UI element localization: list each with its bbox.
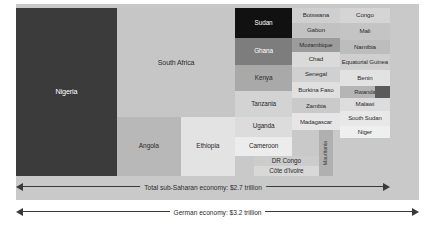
treemap-tile-nigeria[interactable]: Nigeria (16, 8, 117, 176)
arrow-head-left (16, 183, 23, 191)
tile-label: Gabon (306, 27, 326, 33)
tile-label: South Africa (157, 59, 196, 66)
treemap-tile-kenya[interactable]: Kenya (235, 65, 292, 91)
treemap-tile-south-sudan[interactable]: South Sudan (340, 111, 390, 126)
treemap-tile-south-africa[interactable]: South Africa (117, 8, 235, 117)
treemap-plot: NigeriaSouth AfricaAngolaEthiopiaSudanGh… (16, 8, 390, 176)
tile-label: Kenya (254, 75, 274, 82)
tile-label: Botswana (302, 12, 330, 18)
treemap-tile-benin[interactable]: Benin (340, 70, 390, 85)
treemap-tile-tanzania[interactable]: Tanzania (235, 91, 292, 116)
tile-label: Madagascar (299, 119, 333, 125)
treemap-figure: NigeriaSouth AfricaAngolaEthiopiaSudanGh… (0, 0, 435, 227)
tile-label: Malawi (355, 101, 376, 107)
tile-label: Equatorial Guinea (341, 59, 389, 65)
measure-label-german: German economy: $3.2 trillion (170, 208, 266, 215)
treemap-tile-madagascar[interactable]: Madagascar (292, 113, 340, 130)
measure-line: German economy: $3.2 trillion (23, 211, 412, 212)
tile-label: Ghana (253, 48, 274, 55)
treemap-tile-rwanda[interactable]: Rwanda (340, 86, 390, 99)
tile-label: Tanzania (250, 101, 277, 108)
arrow-head-right (412, 208, 419, 216)
tile-label: DR Congo (271, 158, 302, 165)
measure-label-sub-saharan: Total sub-Saharan economy: $2.7 trillion (140, 183, 266, 190)
treemap-tile-mauritania[interactable]: Mauritania (319, 130, 333, 176)
tile-label: Zambia (305, 103, 327, 109)
tile-label: Mozambique (298, 42, 333, 48)
treemap-tile-angola[interactable]: Angola (117, 117, 181, 176)
treemap-tile-cameroon[interactable]: Cameroon (235, 137, 292, 156)
treemap-tile-zambia[interactable]: Zambia (292, 98, 340, 113)
treemap-tile-mozambique[interactable]: Mozambique (292, 38, 340, 52)
arrow-head-left (16, 208, 23, 216)
treemap-tile-namibia[interactable]: Namibia (340, 40, 390, 54)
treemap-tile-equatorial-guinea[interactable]: Equatorial Guinea (340, 54, 390, 70)
treemap-tile-congo[interactable]: Congo (340, 8, 390, 23)
tile-label: Nigeria (54, 88, 78, 95)
tile-label: Uganda (252, 123, 276, 130)
treemap-tile-botswana[interactable]: Botswana (292, 8, 340, 23)
tile-label: Ethiopia (195, 143, 220, 150)
tile-label: Chad (308, 56, 324, 62)
treemap-tile-burkina-faso[interactable]: Burkina Faso (292, 82, 340, 99)
treemap-tile-uganda[interactable]: Uganda (235, 117, 292, 137)
tile-label: Sudan (254, 20, 274, 27)
tile-label: Mauritania (322, 141, 330, 165)
tile-label: Namibia (353, 44, 377, 50)
treemap-tile-mali[interactable]: Mali (340, 23, 390, 40)
treemap-tile-ghana[interactable]: Ghana (235, 38, 292, 66)
measure-sub-saharan: Total sub-Saharan economy: $2.7 trillion (16, 180, 390, 193)
tile-label: South Sudan (347, 115, 383, 121)
tile-label: Angola (138, 143, 160, 150)
treemap-tile-niger[interactable]: Niger (340, 126, 390, 138)
tile-label: Côte d'Ivoire (268, 168, 304, 175)
arrow-head-right (383, 183, 390, 191)
tile-label: Rwanda (353, 89, 376, 95)
treemap-tile-sudan[interactable]: Sudan (235, 8, 292, 38)
tile-label: Benin (356, 75, 373, 81)
rwanda-marker (375, 86, 390, 99)
treemap-tile-gabon[interactable]: Gabon (292, 23, 340, 38)
measure-line: Total sub-Saharan economy: $2.7 trillion (23, 186, 383, 187)
treemap-tile-senegal[interactable]: Senegal (292, 67, 340, 82)
tile-label: Mali (358, 28, 371, 34)
treemap-tile-dr-congo[interactable]: DR Congo (254, 156, 319, 166)
treemap-tile-malawi[interactable]: Malawi (340, 98, 390, 110)
tile-label: Senegal (304, 71, 328, 77)
treemap-tile-ethiopia[interactable]: Ethiopia (181, 117, 236, 176)
tile-label: Burkina Faso (297, 87, 334, 93)
tile-label: Congo (355, 12, 375, 18)
treemap-tile-c-te-d-ivoire[interactable]: Côte d'Ivoire (254, 166, 319, 176)
measure-german: German economy: $3.2 trillion (16, 205, 419, 218)
treemap-tile-chad[interactable]: Chad (292, 52, 340, 67)
tile-label: Cameroon (248, 143, 279, 150)
tile-label: Niger (357, 129, 373, 135)
